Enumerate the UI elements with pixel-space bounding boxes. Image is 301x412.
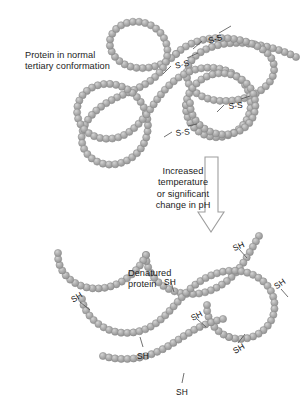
caption-denaturing-conditions: Increased temperature or significant cha… xyxy=(147,166,219,212)
amino-acid-bead xyxy=(186,99,193,106)
thiol-label-6: SH xyxy=(137,351,149,361)
amino-acid-bead xyxy=(203,301,210,308)
disulfide-bond-label-4: S-S xyxy=(175,126,190,138)
amino-acid-bead xyxy=(54,249,61,256)
protein-denaturation-figure: Protein in normal tertiary conformation … xyxy=(0,0,301,412)
thiol-label-8: SH xyxy=(176,387,188,397)
folded-protein-chain xyxy=(74,18,300,168)
thiol-label-2: SH xyxy=(164,277,176,287)
amino-acid-bead xyxy=(219,315,226,322)
caption-normal-protein: Protein in normal tertiary conformation xyxy=(25,50,110,73)
disulfide-bond-label-3: S-S xyxy=(228,100,243,111)
denatured-protein-chain xyxy=(54,232,278,362)
